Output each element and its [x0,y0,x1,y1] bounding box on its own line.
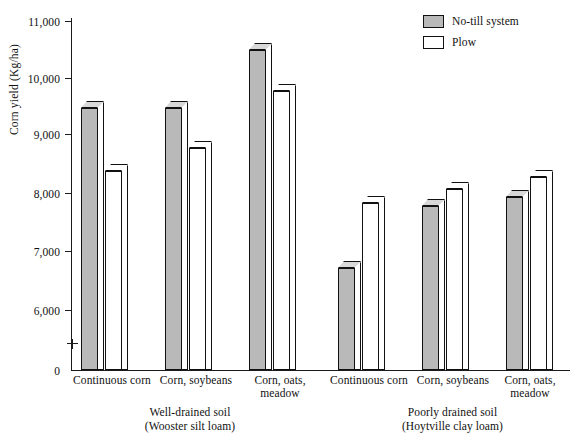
group-label-well-drained-soil: Well-drained soil (Wooster silt loam) [95,405,285,433]
bar-side-face [462,183,469,370]
bar-front-face [105,171,122,370]
bar-front-face [249,50,266,370]
y-tick-label-10000: 10,000 [28,73,60,85]
bar-front-face [189,148,206,370]
y-tick-8000: 8,000 [65,193,72,194]
bar-side-face [121,165,128,370]
bar-front-face [165,108,182,370]
bar-side-face [522,191,529,370]
bar-side-face [265,44,272,370]
bar-side-face [354,262,361,370]
bar-front-face [530,177,547,370]
y-tick-7000: 7,000 [65,251,72,252]
bar-side-face [97,102,104,370]
corn-yield-bar-chart: Corn yield (Kg/ha) No-till system Plow 1… [0,0,578,440]
group-label-poorly-drained-soil: Poorly drained soil (Hoytville clay loam… [355,405,550,433]
bar-front-face [506,197,523,370]
y-axis-title: Corn yield (Kg/ha) [8,0,20,135]
y-tick-6000: 6,000 [65,310,72,311]
y-axis-break-mark [67,343,78,344]
x-category-label-5: Corn, oats, meadow [482,374,578,400]
bar-front-face [362,203,379,370]
bar-front-face [338,268,355,370]
bar-side-face [546,171,553,370]
y-tick-10000: 10,000 [65,78,72,79]
plot-area: 11,000 10,000 9,000 8,000 7,000 6,000 0 [71,18,570,371]
y-tick-label-8000: 8,000 [34,188,60,200]
y-tick-label-6000: 6,000 [34,305,60,317]
y-tick-label-9000: 9,000 [34,129,60,141]
bar-front-face [422,206,439,370]
y-tick-label-7000: 7,000 [34,246,60,258]
y-tick-11000: 11,000 [65,21,72,22]
y-tick-9000: 9,000 [65,134,72,135]
bar-side-face [378,197,385,370]
bar-front-face [81,108,98,370]
y-tick-label-11000: 11,000 [28,16,60,28]
bar-front-face [273,91,290,370]
bar-side-face [181,102,188,370]
bar-side-face [205,142,212,370]
bar-side-face [438,200,445,370]
bar-side-face [289,85,296,370]
bar-front-face [446,189,463,370]
